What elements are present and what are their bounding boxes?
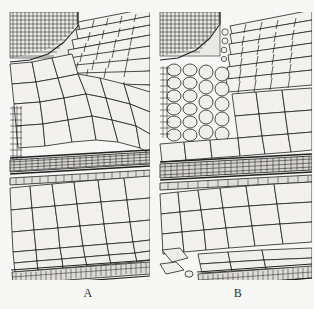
polygonal-parenchyma-lower-a [10, 176, 150, 252]
panel-b-svg [158, 12, 312, 280]
apex-cleft-b [221, 18, 228, 68]
left-margin-file-b [160, 66, 170, 138]
polygonal-parenchyma-upper-b [160, 88, 312, 162]
apical-meristem-block-b [160, 12, 220, 60]
panel-b-caption: B [218, 286, 258, 301]
panel-a-svg [8, 12, 150, 280]
panel-b-section-drawing [158, 12, 312, 280]
panel-a-caption: A [68, 286, 108, 301]
polygonal-parenchyma-lower-b [160, 182, 312, 254]
diagonal-cell-rows-b [226, 12, 312, 93]
vertical-cell-files-b [167, 64, 229, 141]
growth-ring-band-a [10, 150, 150, 174]
protruding-cell-b [160, 248, 193, 277]
panel-a-section-drawing [8, 12, 150, 280]
figure-root: A B [0, 0, 314, 309]
